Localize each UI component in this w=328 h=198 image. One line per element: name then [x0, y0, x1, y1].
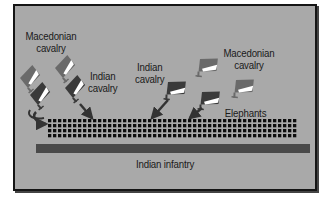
macedonian-cavalry-left-label: Macedonian cavalry: [25, 30, 76, 54]
arrow-icon: [80, 104, 92, 118]
indian-cavalry-left-label: Indian cavalry: [88, 70, 117, 94]
label-line: cavalry: [135, 73, 164, 85]
elephants-formation: [48, 119, 296, 137]
indian-cavalry-left-unit-1: [27, 81, 54, 111]
label-line: cavalry: [223, 59, 274, 71]
label-line: Macedonian: [25, 30, 76, 42]
label-line: Indian: [135, 61, 164, 73]
macedonian-cavalry-right-unit-2: [229, 73, 258, 104]
label-line: cavalry: [88, 82, 117, 94]
indian-cavalry-center-label: Indian cavalry: [135, 61, 164, 85]
indian-cavalry-left-unit-2: [62, 74, 89, 104]
macedonian-cavalry-right-label: Macedonian cavalry: [223, 47, 274, 71]
arrow-icon: [152, 100, 168, 118]
indian-infantry-label: Indian infantry: [136, 158, 194, 170]
indian-infantry-bar: [36, 144, 310, 153]
macedonian-cavalry-right-unit-1: [193, 52, 222, 83]
indian-cavalry-center-unit-1: [161, 75, 190, 106]
label-line: Indian: [88, 70, 117, 82]
arrow-icon: [29, 110, 44, 119]
elephants-label: Elephants: [225, 107, 266, 119]
label-line: Macedonian: [223, 47, 274, 59]
arrow-icon: [190, 108, 202, 118]
label-line: cavalry: [25, 42, 76, 54]
